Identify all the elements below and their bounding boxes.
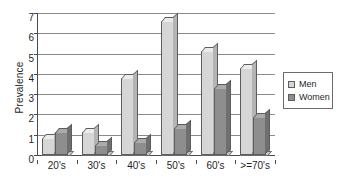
legend-item-men[interactable]: Men	[288, 78, 328, 90]
x-tick-label-60s: 60's	[196, 160, 236, 172]
y-tick-label-2: 2	[20, 114, 34, 124]
bar-women-50s	[174, 128, 187, 155]
x-tick-label-30s: 30's	[77, 160, 117, 172]
x-tick-label-40s: 40's	[116, 160, 156, 172]
bar-side-face	[226, 80, 231, 154]
bar-side-face	[265, 109, 270, 154]
x-tick-label-50s: 50's	[156, 160, 196, 172]
bar-men-60s	[201, 51, 214, 155]
y-tick-label-7: 7	[20, 13, 34, 23]
bar-group	[157, 13, 197, 155]
bar-side-face	[67, 123, 72, 154]
y-tick-label-5: 5	[20, 54, 34, 64]
legend-label-women: Women	[299, 93, 330, 102]
legend-swatch-men	[288, 81, 295, 88]
y-tick-label-3: 3	[20, 94, 34, 104]
x-tick-mark	[37, 160, 38, 164]
bar-women-30s	[95, 145, 108, 155]
plot-area	[37, 13, 275, 155]
bar-women-60s	[214, 88, 227, 155]
x-axis-tick-labels: 20's30's40's50's60's>=70's	[37, 160, 275, 176]
y-tick-mark-0	[34, 155, 38, 156]
bar-group	[117, 13, 157, 155]
bar-women-20s	[55, 132, 68, 155]
bar-men-70s	[240, 68, 253, 155]
y-axis-tick-labels: 01234567	[20, 8, 34, 157]
bar-women-70s	[253, 117, 266, 155]
bar-women-40s	[134, 142, 147, 155]
legend-item-women[interactable]: Women	[288, 91, 328, 103]
y-tick-label-0: 0	[20, 155, 34, 165]
legend-label-men: Men	[299, 80, 317, 89]
x-tick-label-20s: 20's	[37, 160, 77, 172]
bar-chart-figure: Prevalence 01234567 20's30's40's50's60's…	[0, 0, 338, 182]
bar-group	[197, 13, 237, 155]
bar-group	[38, 13, 78, 155]
x-tick-label-70s: >=70's	[235, 160, 275, 172]
bar-group	[78, 13, 118, 155]
y-tick-label-4: 4	[20, 74, 34, 84]
bar-men-20s	[42, 138, 55, 155]
chart-legend: MenWomen	[283, 72, 333, 109]
bar-side-face	[186, 119, 191, 154]
x-tick-mark	[275, 160, 276, 164]
bars-layer	[38, 13, 275, 155]
legend-swatch-women	[288, 94, 295, 101]
bar-group	[236, 13, 276, 155]
bar-men-30s	[82, 132, 95, 155]
y-tick-label-6: 6	[20, 33, 34, 43]
bar-men-40s	[121, 78, 134, 155]
y-tick-label-1: 1	[20, 135, 34, 145]
bar-men-50s	[161, 21, 174, 155]
